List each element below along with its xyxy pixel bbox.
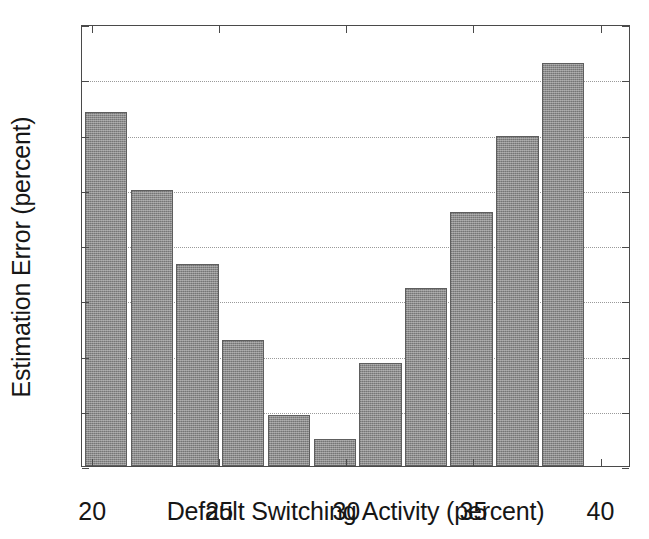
bar xyxy=(222,340,264,466)
bar xyxy=(496,136,538,466)
x-tick-mark xyxy=(346,459,347,466)
y-tick-mark xyxy=(82,81,89,82)
y-tick-mark xyxy=(82,137,89,138)
y-tick-mark-right xyxy=(622,468,629,469)
y-tick-mark-right xyxy=(622,137,629,138)
bar xyxy=(85,112,127,466)
bar xyxy=(314,439,356,466)
bar xyxy=(542,63,584,466)
y-tick-mark xyxy=(82,192,89,193)
x-tick-mark-top xyxy=(473,26,474,33)
x-tick-mark-top xyxy=(601,26,602,33)
y-tick-mark xyxy=(82,302,89,303)
x-tick-mark xyxy=(601,459,602,466)
bar xyxy=(359,363,401,466)
x-tick-mark xyxy=(473,459,474,466)
y-tick-mark-right xyxy=(622,26,629,27)
y-tick-mark xyxy=(82,26,89,27)
y-tick-mark xyxy=(82,358,89,359)
bar-chart-figure: Estimation Error (percent) 0510152025303… xyxy=(0,0,649,539)
x-tick-mark-top xyxy=(92,26,93,33)
plot-area: 05101520253035402025303540 xyxy=(81,25,630,467)
bar xyxy=(131,190,173,466)
y-axis-title: Estimation Error (percent) xyxy=(4,22,38,492)
y-tick-mark-right xyxy=(622,247,629,248)
x-axis-title: Default Switching Activity (percent) xyxy=(81,497,630,526)
y-tick-mark xyxy=(82,247,89,248)
bar xyxy=(450,212,492,466)
y-tick-mark xyxy=(82,413,89,414)
y-tick-mark-right xyxy=(622,413,629,414)
x-tick-mark-top xyxy=(346,26,347,33)
x-tick-mark xyxy=(219,459,220,466)
bar xyxy=(268,415,310,466)
y-tick-mark-right xyxy=(622,81,629,82)
x-tick-mark-top xyxy=(219,26,220,33)
y-tick-mark-right xyxy=(622,192,629,193)
bar xyxy=(405,288,447,466)
x-tick-mark xyxy=(92,459,93,466)
y-tick-mark-right xyxy=(622,358,629,359)
y-tick-mark xyxy=(82,468,89,469)
plot-inner xyxy=(82,26,629,466)
y-tick-mark-right xyxy=(622,302,629,303)
bar xyxy=(176,264,218,466)
